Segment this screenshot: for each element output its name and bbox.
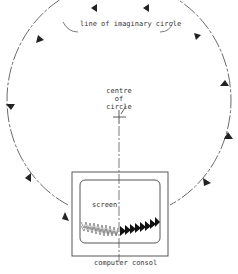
direction-arrows: [6, 4, 233, 221]
screen-trail-outline: [81, 222, 118, 236]
centre-label-line2: of: [99, 95, 139, 103]
circle-label: line of imaginary circle: [80, 20, 181, 28]
centre-label-line3: circle: [99, 103, 139, 111]
diagram-canvas: [0, 0, 238, 274]
centre-label-line1: centre: [99, 87, 139, 95]
screen-label: screen: [92, 201, 117, 209]
screen-trail-filled: [120, 217, 160, 236]
console-label: computer consol: [94, 259, 157, 267]
